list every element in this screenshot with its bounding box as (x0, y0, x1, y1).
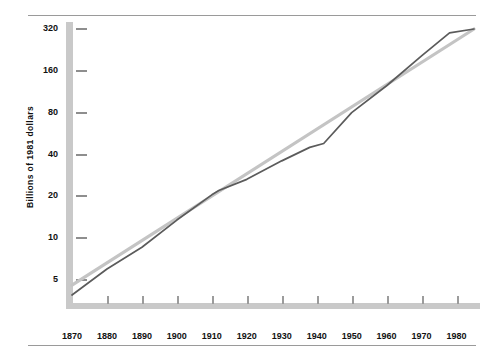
trend-line (72, 29, 474, 285)
figure-container: Billions of 1981 dollars 320160804020105… (0, 0, 504, 359)
plot-lines (0, 0, 504, 359)
